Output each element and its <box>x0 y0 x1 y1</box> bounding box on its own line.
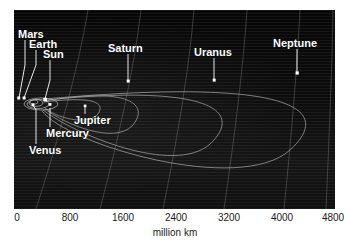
x-tick-800: 800 <box>62 212 79 223</box>
marker-jupiter <box>84 105 87 108</box>
x-tick-3200: 3200 <box>218 212 240 223</box>
x-tick-2400: 2400 <box>165 212 187 223</box>
orbit-plot-area: Mars Earth Sun Saturn Uranus Neptune Jup… <box>14 10 335 209</box>
marker-saturn <box>127 80 130 83</box>
x-tick-0: 0 <box>14 212 20 223</box>
x-tick-4800: 4800 <box>322 212 344 223</box>
planet-label-uranus: Uranus <box>194 47 232 58</box>
leader-earth <box>24 50 36 98</box>
marker-neptune <box>296 71 299 74</box>
leader-mars <box>19 40 25 98</box>
planet-label-mercury: Mercury <box>46 128 89 139</box>
marker-mars <box>17 97 20 100</box>
x-axis: 0 800 1600 2400 3200 4000 4800 million k… <box>0 209 350 244</box>
x-tick-4000: 4000 <box>271 212 293 223</box>
planet-label-saturn: Saturn <box>108 43 143 54</box>
marker-mercury <box>49 103 52 106</box>
marker-venus <box>32 103 35 106</box>
x-tick-1600: 1600 <box>112 212 134 223</box>
planet-label-jupiter: Jupiter <box>74 115 111 126</box>
marker-sun <box>43 98 47 102</box>
planet-label-sun: Sun <box>43 49 64 60</box>
planet-label-venus: Venus <box>29 145 61 156</box>
figure-root: Mars Earth Sun Saturn Uranus Neptune Jup… <box>0 0 350 244</box>
marker-uranus <box>213 79 216 82</box>
marker-earth <box>23 97 26 100</box>
planet-label-neptune: Neptune <box>273 38 317 49</box>
leader-venus <box>33 105 36 144</box>
x-axis-title: million km <box>0 227 350 238</box>
leader-sun <box>45 60 50 99</box>
